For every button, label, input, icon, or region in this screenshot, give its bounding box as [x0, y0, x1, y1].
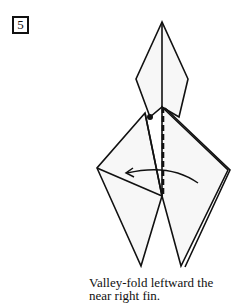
left-fin: [97, 113, 162, 266]
reference-dot: [147, 114, 153, 120]
right-fin: [162, 107, 228, 266]
caption-line-2: near right fin.: [89, 289, 243, 302]
origami-diagram: [0, 0, 243, 307]
instruction-caption: Valley-fold leftward the near right fin.: [89, 276, 243, 302]
